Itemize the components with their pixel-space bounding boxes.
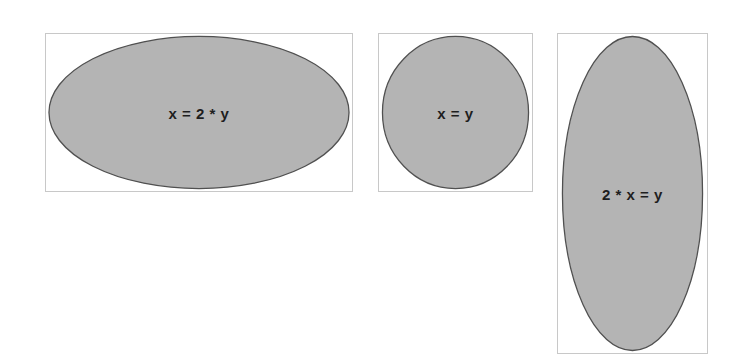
frame-circle: x = y [378, 33, 533, 192]
frame-wide-ellipse: x = 2 * y [45, 33, 353, 192]
wide-ellipse-shape [46, 34, 352, 191]
circle-shape [379, 34, 532, 191]
tall-ellipse-shape [558, 34, 707, 353]
frame-tall-ellipse: 2 * x = y [557, 33, 708, 354]
